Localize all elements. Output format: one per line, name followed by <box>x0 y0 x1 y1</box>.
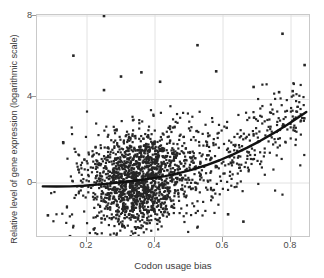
x-tick-mark-04 <box>154 237 155 242</box>
scatter-points <box>47 15 306 237</box>
x-tick-mark-02 <box>86 237 87 242</box>
plot-canvas <box>37 15 310 237</box>
x-axis-title: Codon usage bias <box>36 260 310 271</box>
x-tick-mark-06 <box>222 237 223 242</box>
x-tick-mark-08 <box>290 237 291 242</box>
plot-panel <box>36 14 310 237</box>
scatter-plot-figure: Relative level of gene expression (logar… <box>0 0 324 278</box>
